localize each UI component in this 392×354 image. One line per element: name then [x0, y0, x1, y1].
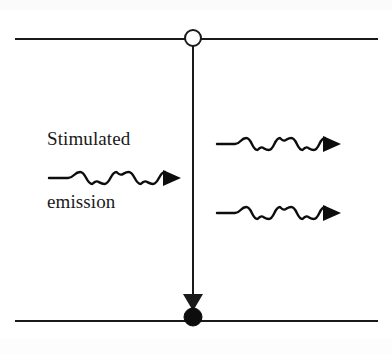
stimulated-emission-label: Stimulated emission	[47, 86, 130, 254]
stimulated-emission-label-line1: Stimulated	[47, 128, 130, 149]
emitted-photon-upper-wave-path	[217, 138, 325, 150]
incident-photon-arrowhead	[163, 170, 181, 186]
electron-lower-filled-circle	[184, 308, 202, 326]
stimulated-emission-label-line2: emission	[47, 191, 130, 212]
stimulated-emission-figure: Stimulated emission	[0, 0, 392, 354]
electron-upper-open-circle	[185, 30, 201, 46]
emitted-photon-wave-lower	[217, 205, 341, 221]
emitted-photon-upper-arrowhead	[323, 136, 341, 152]
emitted-photon-wave-upper	[217, 136, 341, 152]
emitted-photon-lower-arrowhead	[323, 205, 341, 221]
emitted-photon-lower-wave-path	[217, 207, 325, 219]
